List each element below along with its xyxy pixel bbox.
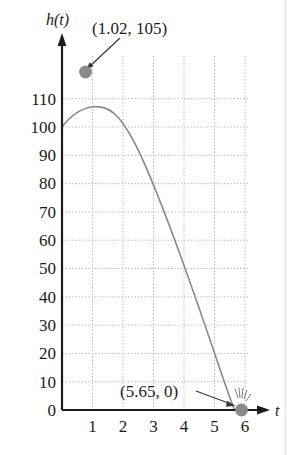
grid-lines [62,56,248,410]
x-tick-6: 6 [241,417,250,436]
vertex-marker [79,66,92,79]
x-tick-1: 1 [88,417,97,436]
y-tick-60: 60 [39,231,56,250]
y-tick-0: 0 [48,401,57,420]
y-tick-50: 50 [39,259,56,278]
zero-annotation: (5.65, 0) [120,382,251,416]
function-graph-svg: h(t) t 110 100 90 80 70 60 50 40 30 20 1… [0,0,300,455]
y-axis-label: h(t) [46,11,69,29]
y-axis-arrowhead [58,33,67,46]
axes [58,33,270,414]
y-tick-20: 20 [39,344,56,363]
x-tick-3: 3 [149,417,158,436]
graph-figure: h(t) t 110 100 90 80 70 60 50 40 30 20 1… [0,0,300,455]
y-tick-30: 30 [39,316,56,335]
zero-leader-line [196,391,231,404]
y-tick-110: 110 [31,90,56,109]
y-tick-90: 90 [39,146,56,165]
vertex-label: (1.02, 105) [92,19,167,38]
x-axis-label: t [275,402,280,419]
x-tick-4: 4 [180,417,189,436]
x-tick-2: 2 [119,417,128,436]
y-tick-70: 70 [39,203,56,222]
zero-marker [235,404,248,417]
zero-marker-rays [235,388,251,401]
x-tick-labels: 1 2 3 4 5 6 [88,417,249,436]
y-tick-100: 100 [31,118,57,137]
y-tick-labels: 110 100 90 80 70 60 50 40 30 20 10 0 [31,90,57,420]
y-tick-10: 10 [39,373,56,392]
y-tick-40: 40 [39,288,56,307]
x-tick-5: 5 [210,417,219,436]
y-tick-80: 80 [39,174,56,193]
vertex-leader-line [89,38,120,67]
parabola-curve [62,107,234,410]
x-axis-arrowhead [257,406,270,415]
zero-label: (5.65, 0) [120,382,178,401]
